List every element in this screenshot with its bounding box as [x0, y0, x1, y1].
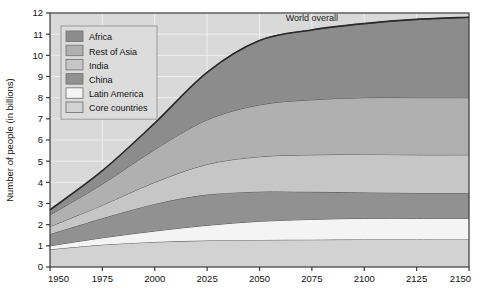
- x-tick-label: 1975: [92, 273, 113, 284]
- legend-swatch-latin-america: [66, 88, 83, 99]
- y-tick-label: 4: [38, 177, 43, 188]
- legend-label-latin-america: Latin America: [89, 89, 144, 99]
- y-tick-label: 3: [38, 198, 43, 209]
- y-tick-label: 2: [38, 219, 43, 230]
- legend-label-core-countries: Core countries: [89, 103, 148, 113]
- legend-swatch-core-countries: [66, 102, 83, 113]
- y-tick-label: 6: [38, 134, 43, 145]
- x-tick-label: 2125: [406, 273, 427, 284]
- legend-swatch-rest-of-asia: [66, 45, 83, 56]
- x-axis: 195019752000202520502075210021252150: [48, 267, 471, 284]
- x-tick-label: 2100: [354, 273, 375, 284]
- x-tick-label: 2000: [144, 273, 165, 284]
- legend-swatch-china: [66, 74, 83, 85]
- legend-label-china: China: [89, 75, 113, 85]
- legend-label-africa: Africa: [89, 32, 112, 42]
- legend-label-rest-of-asia: Rest of Asia: [89, 47, 137, 57]
- y-tick-label: 1: [38, 240, 43, 251]
- population-stacked-area-chart: 0123456789101112195019752000202520502075…: [0, 0, 480, 291]
- x-tick-label: 2050: [249, 273, 270, 284]
- y-tick-label: 11: [33, 29, 43, 40]
- legend-swatch-india: [66, 59, 83, 70]
- y-tick-label: 7: [38, 113, 43, 124]
- y-tick-label: 9: [38, 71, 43, 82]
- y-tick-label: 8: [38, 92, 43, 103]
- chart-container: 0123456789101112195019752000202520502075…: [0, 0, 480, 291]
- x-tick-label: 2025: [197, 273, 218, 284]
- y-tick-label: 10: [32, 50, 43, 61]
- legend-label-india: India: [89, 61, 109, 71]
- y-tick-label: 5: [38, 156, 43, 167]
- y-tick-label: 0: [38, 261, 43, 272]
- x-tick-label: 2075: [301, 273, 322, 284]
- y-axis: 0123456789101112: [32, 7, 50, 272]
- x-tick-label: 1950: [48, 273, 69, 284]
- y-tick-label: 12: [32, 7, 43, 18]
- y-axis-title: Number of people (in billions): [4, 78, 15, 202]
- legend-swatch-africa: [66, 31, 83, 42]
- x-tick-label: 2150: [450, 273, 471, 284]
- legend: AfricaRest of AsiaIndiaChinaLatin Americ…: [61, 26, 157, 119]
- annotation-world-overall: World overall: [286, 13, 338, 23]
